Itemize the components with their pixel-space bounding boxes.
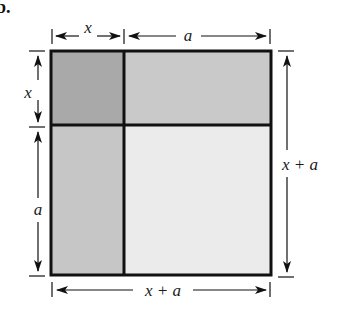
right-dimension-total: x + a: [278, 51, 318, 277]
top-a-label: a: [184, 26, 193, 45]
left-x-label: x: [23, 83, 32, 102]
region-xa-top: [124, 51, 271, 125]
bottom-total-label: x + a: [144, 281, 181, 300]
left-dimension-a: a: [29, 132, 45, 276]
square-decomposition-diagram: b. x a x a: [0, 0, 344, 310]
top-dimension-x: x: [52, 18, 124, 44]
region-a-squared: [124, 125, 271, 275]
top-dimension-a: a: [129, 26, 270, 45]
part-label: b.: [0, 0, 11, 17]
region-x-squared: [51, 51, 124, 125]
bottom-dimension-total: x + a: [52, 281, 270, 300]
left-a-label: a: [34, 200, 43, 219]
left-dimension-x: x: [23, 51, 45, 127]
top-x-label: x: [83, 18, 92, 37]
region-ax-left: [51, 125, 124, 275]
right-total-label: x + a: [281, 155, 318, 174]
